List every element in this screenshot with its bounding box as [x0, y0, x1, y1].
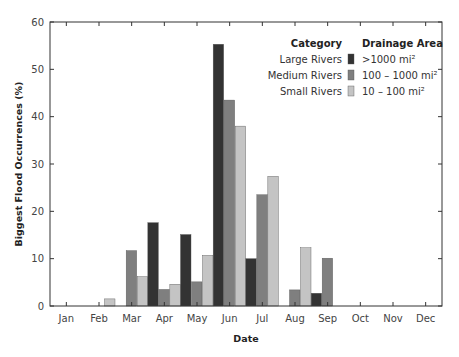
y-tick-label: 60 — [31, 17, 44, 28]
x-axis-title: Date — [233, 333, 258, 344]
bar-medium-rivers-sep — [322, 258, 333, 306]
bar-small-rivers-apr — [170, 284, 181, 306]
bar-medium-rivers-jun — [224, 100, 235, 306]
x-tick-label: Feb — [90, 313, 108, 324]
legend-swatch — [348, 86, 354, 96]
bar-large-rivers-jun — [213, 44, 224, 306]
legend-swatch — [348, 54, 354, 64]
x-tick-label: Dec — [416, 313, 435, 324]
bar-small-rivers-jun — [235, 126, 246, 306]
legend-label: Medium Rivers — [268, 70, 342, 81]
bar-small-rivers-may — [203, 255, 214, 306]
bar-small-rivers-feb — [105, 299, 116, 306]
x-tick-label: Jan — [58, 313, 74, 324]
x-tick-label: Mar — [122, 313, 142, 324]
legend-header-category: Category — [291, 38, 343, 49]
x-tick-label: Jul — [255, 313, 268, 324]
y-tick-label: 50 — [31, 64, 44, 75]
x-tick-label: May — [187, 313, 208, 324]
bar-chart: 0102030405060 JanFebMarAprMayJunJulAugSe… — [0, 0, 459, 357]
legend-swatch — [348, 70, 354, 80]
bar-large-rivers-apr — [148, 223, 159, 306]
bar-large-rivers-sep — [311, 293, 322, 306]
x-tick-label: Apr — [156, 313, 174, 324]
legend-area: >1000 mi² — [362, 54, 416, 65]
x-tick-label: Oct — [352, 313, 369, 324]
legend-label: Large Rivers — [280, 54, 342, 65]
bar-small-rivers-aug — [301, 248, 312, 306]
x-tick-label: Nov — [383, 313, 403, 324]
y-tick-label: 10 — [31, 253, 44, 264]
bar-large-rivers-may — [181, 235, 192, 306]
legend-label: Small Rivers — [280, 86, 342, 97]
bar-small-rivers-mar — [137, 277, 148, 306]
x-tick-label: Sep — [318, 313, 337, 324]
legend: CategoryDrainage AreaLarge Rivers>1000 m… — [268, 38, 443, 97]
bar-large-rivers-jul — [246, 259, 256, 306]
x-tick-label: Aug — [285, 313, 305, 324]
legend-header-area: Drainage Area — [362, 38, 443, 49]
legend-area: 100 – 1000 mi² — [362, 70, 438, 81]
y-tick-label: 40 — [31, 111, 44, 122]
bar-small-rivers-jul — [268, 176, 279, 306]
y-axis-title: Biggest Flood Occurrences (%) — [13, 82, 24, 247]
x-tick-label: Jun — [221, 313, 238, 324]
bar-medium-rivers-jul — [257, 195, 268, 306]
legend-area: 10 – 100 mi² — [362, 86, 425, 97]
bars — [105, 44, 333, 306]
y-tick-label: 20 — [31, 206, 44, 217]
y-tick-label: 30 — [31, 159, 44, 170]
bar-medium-rivers-mar — [126, 251, 136, 306]
y-tick-label: 0 — [38, 301, 44, 312]
